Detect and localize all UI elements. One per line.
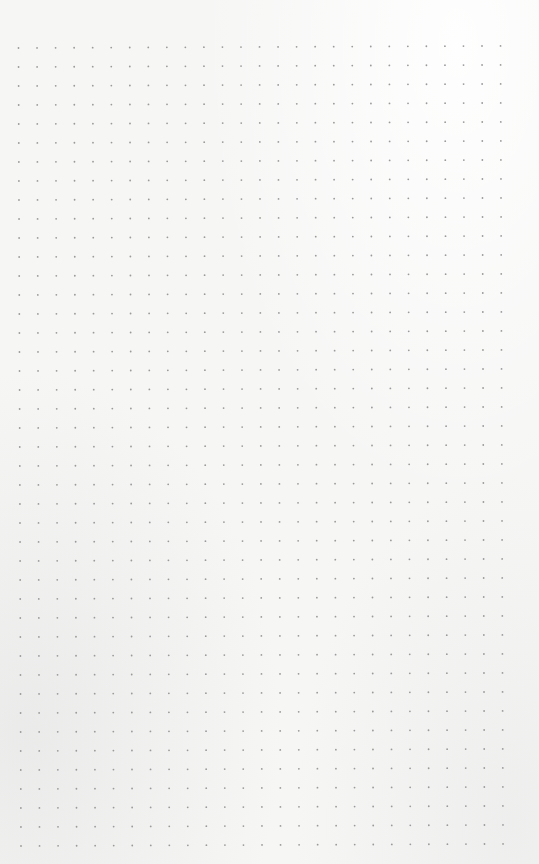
grid-dot — [500, 292, 502, 294]
grid-dot — [148, 180, 150, 182]
grid-dot — [482, 273, 484, 275]
grid-dot — [389, 274, 391, 276]
grid-dot — [427, 596, 429, 598]
grid-dot — [185, 274, 187, 276]
grid-dot — [464, 425, 466, 427]
grid-dot — [19, 522, 21, 524]
grid-dot — [150, 845, 152, 847]
grid-dot — [203, 46, 205, 48]
grid-dot — [372, 711, 374, 713]
grid-dot — [223, 616, 225, 618]
grid-dot — [371, 388, 373, 390]
grid-dot — [168, 654, 170, 656]
grid-dot — [55, 142, 57, 144]
grid-dot — [205, 806, 207, 808]
grid-dot — [372, 673, 374, 675]
grid-dot — [55, 161, 57, 163]
grid-dot — [464, 615, 466, 617]
grid-dot — [36, 104, 38, 106]
grid-dot — [204, 502, 206, 504]
grid-dot — [315, 160, 317, 162]
grid-dot — [259, 103, 261, 105]
grid-dot — [130, 351, 132, 353]
grid-dot — [110, 47, 112, 49]
grid-dot — [390, 559, 392, 561]
grid-dot — [130, 427, 132, 429]
grid-dot — [94, 693, 96, 695]
grid-dot — [243, 844, 245, 846]
grid-dot — [261, 825, 263, 827]
grid-dot — [371, 407, 373, 409]
grid-dot — [168, 616, 170, 618]
grid-dot — [76, 807, 78, 809]
grid-dot — [426, 178, 428, 180]
grid-dot — [131, 598, 133, 600]
grid-dot — [111, 351, 113, 353]
grid-dot — [352, 255, 354, 257]
grid-dot — [112, 617, 114, 619]
grid-dot — [353, 654, 355, 656]
grid-dot — [481, 45, 483, 47]
grid-dot — [298, 844, 300, 846]
grid-dot — [187, 825, 189, 827]
grid-dot — [354, 844, 356, 846]
grid-dot — [298, 654, 300, 656]
grid-dot — [204, 445, 206, 447]
grid-dot — [446, 520, 448, 522]
grid-dot — [335, 806, 337, 808]
grid-dot — [298, 673, 300, 675]
grid-dot — [353, 616, 355, 618]
grid-dot — [296, 255, 298, 257]
grid-dot — [56, 427, 58, 429]
grid-dot — [167, 255, 169, 257]
grid-dot — [314, 65, 316, 67]
grid-dot — [167, 521, 169, 523]
grid-dot — [56, 503, 58, 505]
grid-dot — [204, 293, 206, 295]
grid-dot — [186, 540, 188, 542]
grid-dot — [390, 445, 392, 447]
grid-dot — [389, 331, 391, 333]
grid-dot — [37, 446, 39, 448]
grid-dot — [408, 349, 410, 351]
grid-dot — [75, 769, 77, 771]
grid-dot — [389, 122, 391, 124]
grid-dot — [92, 104, 94, 106]
grid-dot — [130, 503, 132, 505]
grid-dot — [444, 159, 446, 161]
grid-dot — [314, 122, 316, 124]
grid-dot — [223, 540, 225, 542]
grid-dot — [502, 767, 504, 769]
grid-dot — [315, 255, 317, 257]
grid-dot — [370, 217, 372, 219]
grid-dot — [446, 577, 448, 579]
grid-dot — [150, 769, 152, 771]
grid-dot — [112, 731, 114, 733]
grid-dot — [259, 122, 261, 124]
grid-dot — [501, 330, 503, 332]
grid-dot — [18, 123, 20, 125]
grid-dot — [445, 254, 447, 256]
grid-dot — [222, 122, 224, 124]
grid-dot — [333, 141, 335, 143]
grid-dot — [186, 464, 188, 466]
grid-dot — [187, 711, 189, 713]
grid-dot — [57, 731, 59, 733]
grid-dot — [334, 369, 336, 371]
grid-dot — [334, 578, 336, 580]
grid-dot — [445, 482, 447, 484]
grid-dot — [315, 350, 317, 352]
grid-dot — [371, 350, 373, 352]
grid-dot — [390, 521, 392, 523]
grid-dot — [203, 141, 205, 143]
grid-dot — [260, 483, 262, 485]
grid-dot — [75, 522, 77, 524]
grid-dot — [149, 427, 151, 429]
grid-dot — [316, 540, 318, 542]
grid-dot — [501, 615, 503, 617]
grid-dot — [296, 160, 298, 162]
grid-dot — [260, 502, 262, 504]
grid-dot — [224, 711, 226, 713]
grid-dot — [148, 142, 150, 144]
grid-dot — [185, 141, 187, 143]
